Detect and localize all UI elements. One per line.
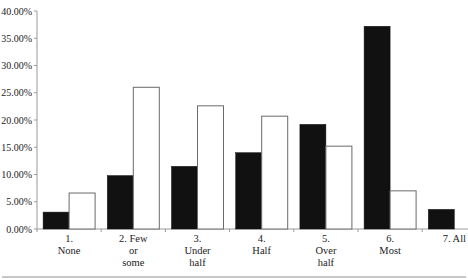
bar-series1-cat6	[364, 26, 390, 229]
x-category-label-line: 3.	[194, 233, 202, 244]
x-category-label-line: 4.	[258, 233, 266, 244]
bar-chart: 0.00%5.00%10.00%15.00%20.00%25.00%30.00%…	[0, 0, 468, 279]
x-category-label-line: 6.	[386, 233, 394, 244]
y-tick-label: 35.00%	[1, 33, 32, 44]
x-category-label-line: 2. Few	[119, 233, 148, 244]
bar-series1-cat7	[428, 209, 454, 229]
y-tick-label: 15.00%	[1, 142, 32, 153]
y-tick-label: 20.00%	[1, 115, 32, 126]
bar-series1-cat4	[236, 153, 262, 229]
bar-series2-cat3	[198, 106, 224, 229]
x-category-label-line: None	[58, 245, 81, 256]
x-category-label-line: half	[189, 257, 206, 268]
x-category-label-line: 7. All	[443, 233, 466, 244]
x-category-label-line: Over	[315, 245, 336, 256]
y-tick-label: 30.00%	[1, 60, 32, 71]
bar-series2-cat4	[262, 116, 288, 229]
x-category-label: 4.Half	[252, 233, 271, 256]
bar-series1-cat5	[300, 124, 326, 229]
x-category-label-line: Under	[184, 245, 211, 256]
x-category-label-line: 5.	[322, 233, 330, 244]
y-tick-label: 40.00%	[1, 6, 32, 17]
x-category-label: 2. Feworsome	[119, 233, 148, 268]
x-category-label: 5.Overhalf	[315, 233, 336, 268]
y-tick-label: 5.00%	[6, 196, 32, 207]
bar-series2-cat6	[390, 191, 416, 229]
bar-series2-cat5	[326, 146, 352, 229]
x-category-label-line: half	[318, 257, 335, 268]
x-category-label: 6.Most	[379, 233, 401, 256]
x-category-label-line: or	[129, 245, 138, 256]
x-category-label-line: some	[122, 257, 145, 268]
x-category-label-line: Most	[379, 245, 401, 256]
y-tick-label: 10.00%	[1, 169, 32, 180]
x-category-label: 7. All	[443, 233, 466, 244]
y-tick-label: 25.00%	[1, 87, 32, 98]
bar-series2-cat1	[69, 193, 95, 229]
bars	[43, 26, 454, 229]
x-category-label: 1.None	[58, 233, 81, 256]
x-labels: 1.None2. Feworsome3.Underhalf4.Half5.Ove…	[58, 233, 466, 268]
y-tick-label: 0.00%	[6, 224, 32, 235]
bar-series1-cat1	[43, 212, 69, 229]
bar-series1-cat3	[172, 166, 198, 229]
y-axis: 0.00%5.00%10.00%15.00%20.00%25.00%30.00%…	[1, 6, 37, 235]
x-category-label: 3.Underhalf	[184, 233, 211, 268]
bar-series1-cat2	[107, 176, 133, 229]
x-category-label-line: Half	[252, 245, 271, 256]
bar-series2-cat2	[133, 87, 159, 229]
x-category-label-line: 1.	[65, 233, 73, 244]
